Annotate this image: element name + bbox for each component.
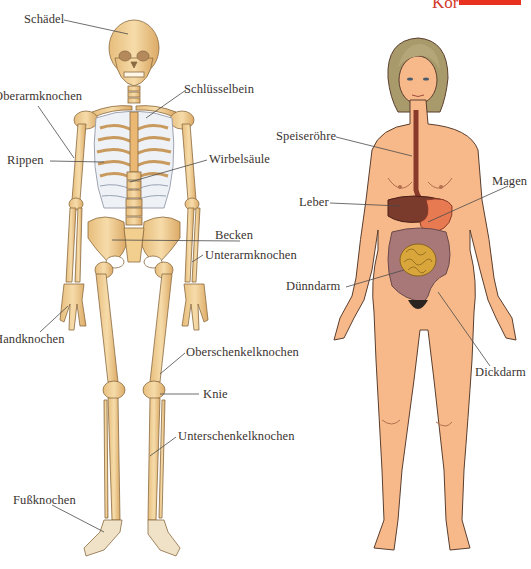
label-duenndarm: Dünndarm — [286, 280, 340, 293]
label-becken: Becken — [215, 229, 253, 242]
anatomy-diagram: Kör — [0, 0, 531, 569]
label-oberarmknochen: Oberarmknochen — [0, 90, 82, 103]
label-rippen: Rippen — [7, 154, 44, 167]
label-fussknochen: Fußknochen — [13, 494, 76, 507]
label-schluesselbein: Schlüsselbein — [184, 83, 254, 96]
human-body-figure — [334, 38, 516, 550]
label-knie: Knie — [203, 388, 228, 401]
label-schaedel: Schädel — [24, 13, 64, 26]
label-wirbelsaeule: Wirbelsäule — [209, 153, 270, 166]
label-oberschenkelknochen: Oberschenkelknochen — [186, 346, 299, 359]
label-leber: Leber — [299, 196, 329, 209]
label-dickdarm: Dickdarm — [475, 366, 526, 379]
label-magen: Magen — [492, 175, 527, 188]
label-unterschenkelknochen: Unterschenkelknochen — [178, 430, 295, 443]
label-unterarmknochen: Unterarmknochen — [205, 249, 297, 262]
skeleton-illustration — [0, 0, 531, 569]
label-speiseroehre: Speiseröhre — [276, 130, 336, 143]
label-handknochen: Handknochen — [0, 333, 65, 346]
